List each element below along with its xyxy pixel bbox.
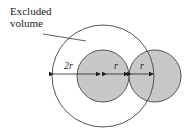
sphere-right bbox=[129, 50, 181, 102]
label-line1: Excluded bbox=[10, 5, 52, 17]
label-leader-line bbox=[43, 34, 86, 41]
sphere-left bbox=[77, 50, 129, 102]
dim-r-left-label: r bbox=[114, 60, 118, 71]
dim-2r-label: 2r bbox=[64, 60, 73, 71]
label-line2: volume bbox=[10, 17, 52, 29]
excluded-volume-label: Excluded volume bbox=[10, 5, 52, 29]
dim-r-right-label: r bbox=[140, 60, 144, 71]
